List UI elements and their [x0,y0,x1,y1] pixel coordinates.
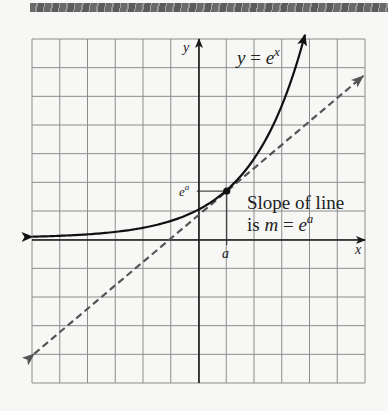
chart-canvas: y x y = ex ea a Slope of line is m = ea [0,0,388,411]
curve-eq-equals: = [245,47,265,68]
slope-exponent: a [307,211,314,226]
curve-eq-e: e [266,47,274,68]
curve-eq-exponent: x [273,44,280,59]
ea-exponent: a [185,182,190,192]
y-axis-label: y [181,40,190,55]
ea-tick-label: ea [179,182,190,199]
slope-annotation-line2: is m = ea [247,211,314,235]
curve-equation-label: y = ex [235,44,280,68]
slope-equals: = [278,214,298,235]
slope-is: is [247,214,264,235]
slope-m: m [264,214,278,235]
curve-eq-y: y [235,47,246,68]
a-tick-label: a [222,246,229,261]
slope-e: e [298,214,306,235]
slope-annotation-line1: Slope of line [247,192,344,213]
tangency-point [223,188,230,195]
x-axis-label: x [354,242,362,257]
